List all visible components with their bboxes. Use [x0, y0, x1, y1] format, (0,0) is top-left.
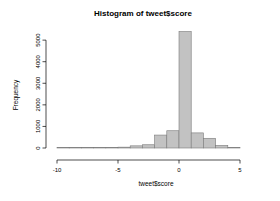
histogram-bar: [155, 135, 167, 148]
y-axis-tick-label: 5000: [35, 33, 41, 47]
histogram-bar: [191, 133, 203, 148]
histogram-bar: [118, 147, 130, 148]
histogram-bar: [142, 145, 154, 148]
histogram-bar: [216, 145, 228, 148]
histogram-bar: [57, 147, 69, 148]
y-axis-label: Frequency: [12, 79, 20, 110]
histogram-figure: Histogram of tweet$score 010002000300040…: [0, 0, 280, 201]
histogram-bar: [81, 147, 93, 148]
histogram-bar: [130, 146, 142, 148]
histogram-bar: [228, 147, 240, 148]
x-axis-label: tweet$score: [138, 180, 173, 187]
histogram-bar: [203, 138, 215, 148]
y-axis-tick-label: 3000: [35, 76, 41, 90]
x-axis-tick-label: -5: [115, 167, 121, 173]
histogram-bar: [94, 147, 106, 148]
histogram-bar: [69, 147, 81, 148]
y-axis-tick-label: 1000: [35, 119, 41, 133]
y-axis-tick-label: 2000: [35, 98, 41, 112]
histogram-bar: [167, 131, 179, 148]
x-axis-tick-label: -10: [53, 167, 62, 173]
histogram-bar: [106, 147, 118, 148]
histogram-bar: [179, 32, 191, 149]
chart-title: Histogram of tweet$score: [94, 9, 192, 18]
y-axis-tick-label: 4000: [35, 54, 41, 68]
